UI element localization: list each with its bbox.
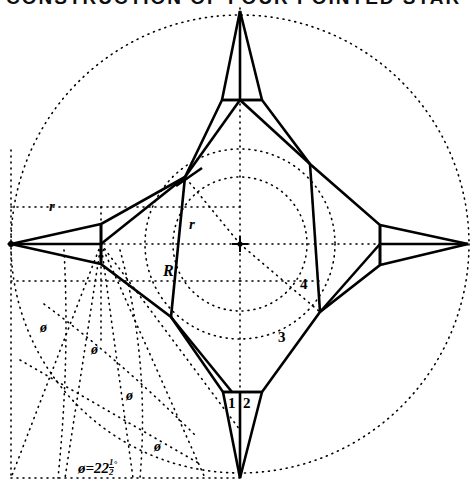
facet-lower-left <box>171 317 232 392</box>
spike-top <box>222 11 262 100</box>
label-outer-radius-r: r <box>49 199 55 214</box>
angle-equation-value: 22 <box>94 460 109 476</box>
angle-equation-symbol: ø <box>78 460 86 476</box>
label-phi-1: ø <box>40 321 47 335</box>
fan-cross-arc-1 <box>44 304 196 436</box>
label-phi-3: ø <box>126 389 133 403</box>
inner-edge-left <box>171 177 185 317</box>
fan-cross-arc-3 <box>120 250 143 478</box>
star-construction-drawing <box>0 0 476 491</box>
label-segment-2: 2 <box>243 396 251 411</box>
fan-ray-4 <box>101 244 205 478</box>
label-mid-radius-R: R <box>163 263 174 279</box>
radius-r-line <box>185 177 240 244</box>
center-mark <box>232 236 248 252</box>
facet-upper-left <box>101 177 185 244</box>
label-phi-2: ø <box>91 343 98 357</box>
label-segment-4: 4 <box>300 277 308 292</box>
label-phi-4: ø <box>154 440 161 454</box>
label-segment-1: 1 <box>228 396 236 411</box>
figure-canvas: CONSTRUCTION OF FOUR POINTED STAR <box>0 0 476 491</box>
angle-equation-degree: ° <box>114 459 118 469</box>
left-tip-node <box>8 241 14 247</box>
fan-ray-1 <box>11 244 101 478</box>
facet-top-left <box>185 100 240 177</box>
angle-equation: ø=2212° <box>78 458 117 476</box>
angle-equation-equals: = <box>86 460 95 476</box>
facet-lower-right <box>320 244 380 312</box>
fan-cross-arc-2 <box>20 360 200 464</box>
fan-ray-2 <box>65 244 101 478</box>
label-inner-radius-r: r <box>189 217 195 232</box>
label-segment-3: 3 <box>278 330 286 345</box>
facet-top-right <box>240 100 310 164</box>
fan-ray-3 <box>101 244 133 478</box>
radius-R-line <box>240 244 320 312</box>
fan-cross-arc-4 <box>58 250 66 478</box>
